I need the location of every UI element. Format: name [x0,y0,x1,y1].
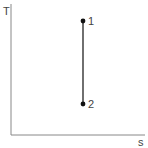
ts-diagram [0,0,148,148]
point-1-label: 1 [88,16,94,27]
point-1-marker [81,19,86,24]
point-2-label: 2 [88,99,94,110]
y-axis-label: T [3,6,10,17]
point-2-marker [81,102,86,107]
x-axis-label: s [138,137,144,148]
